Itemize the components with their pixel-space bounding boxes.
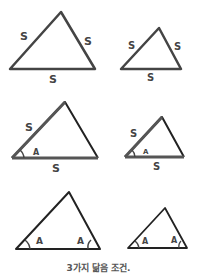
sss-small-triangle: S S S [121,28,181,83]
similarity-diagram: S S S S S S S A S S A S A A A [0,0,197,280]
side-label: S [25,121,33,134]
angle-label: A [36,236,43,246]
angle-label: A [171,236,178,245]
side-label: S [147,72,154,83]
side-label: S [49,73,57,86]
side-label: S [52,162,60,175]
side-label: S [84,35,92,48]
aa-small-triangle: A A [128,208,187,248]
caption: 3가지 닮음 조건. [0,261,197,274]
side-label: S [20,30,28,43]
sas-small-triangle: S A S [125,117,184,172]
side-label: S [128,40,135,51]
side-label: S [130,128,137,139]
sas-large-triangle: S A S [12,102,98,175]
side-label: S [153,161,160,172]
sss-large-triangle: S S S [10,12,95,86]
side-label: S [174,41,181,52]
angle-label: A [142,237,149,246]
angle-label: A [33,148,40,157]
angle-label: A [77,236,84,246]
aa-large-triangle: A A [16,192,100,249]
angle-label: A [143,148,149,156]
